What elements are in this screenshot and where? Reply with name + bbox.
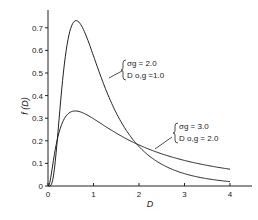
chart: 00.10.20.30.40.50.60.7 01234 f (D) D σg … [0, 0, 258, 220]
x-ticks: 01234 [46, 183, 233, 199]
y-tick-label: 0.7 [32, 24, 44, 33]
series-1-curve [48, 21, 230, 186]
y-tick-label: 0.2 [32, 137, 44, 146]
y-tick-label: 0.6 [32, 46, 44, 55]
x-tick-label: 3 [182, 190, 187, 199]
y-tick-label: 0.1 [32, 159, 44, 168]
x-axis-label: D [147, 199, 154, 209]
annotation-series-2: σg = 3.0 D o,g = 2.0 [155, 122, 219, 149]
curves [48, 21, 230, 186]
y-tick-label: 0.4 [32, 92, 44, 101]
y-tick-label: 0.5 [32, 69, 44, 78]
y-tick-label: 0.3 [32, 114, 44, 123]
series-2-label-d0: D o,g = 2.0 [179, 134, 219, 143]
brace-icon [121, 60, 126, 80]
brace-icon [173, 123, 178, 143]
y-ticks: 00.10.20.30.40.50.60.7 [32, 24, 48, 191]
leader-line [109, 71, 122, 78]
series-1-label-d0: D o,g =1.0 [127, 71, 165, 80]
y-axis-label: f (D) [20, 97, 30, 115]
series-1-label-sigma: σg = 2.0 [127, 59, 157, 68]
x-tick-label: 2 [137, 190, 142, 199]
x-tick-label: 1 [91, 190, 96, 199]
x-tick-label: 4 [228, 190, 233, 199]
leader-line [155, 137, 172, 149]
axes [48, 10, 252, 186]
series-2-label-sigma: σg = 3.0 [179, 122, 209, 131]
annotation-series-1: σg = 2.0 D o,g =1.0 [109, 59, 165, 80]
x-tick-label: 0 [46, 190, 51, 199]
y-tick-label: 0 [39, 182, 44, 191]
